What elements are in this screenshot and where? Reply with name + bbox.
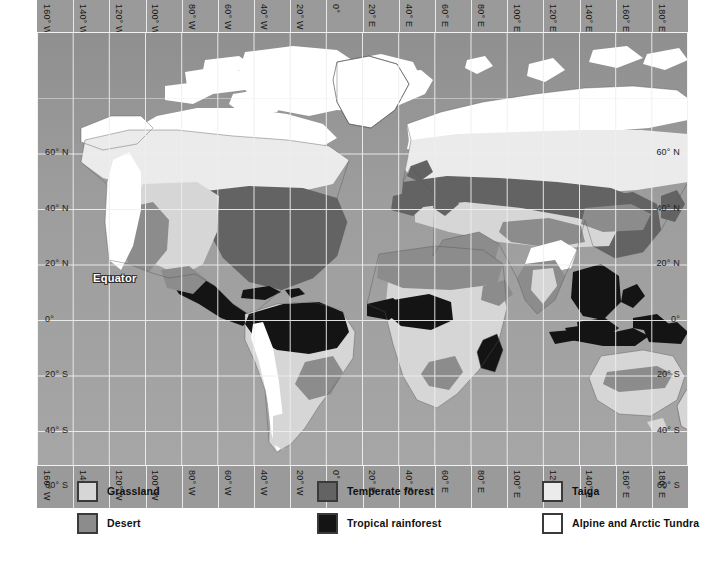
legend-item: Grassland bbox=[77, 480, 160, 502]
region-sahara-desert bbox=[377, 246, 503, 290]
longitude-gridline bbox=[652, 0, 653, 32]
legend-swatch bbox=[77, 513, 98, 534]
longitude-gridline bbox=[471, 0, 472, 32]
longitude-gridline bbox=[616, 0, 617, 32]
legend-item: Temperate forest bbox=[317, 480, 434, 502]
longitude-gridline bbox=[73, 0, 74, 32]
legend-label: Alpine and Arctic Tundra bbox=[572, 517, 699, 529]
legend-swatch bbox=[542, 513, 563, 534]
longitude-top-label: 20° W bbox=[295, 4, 305, 30]
longitude-gridline bbox=[218, 0, 219, 32]
longitude-gridline bbox=[326, 0, 327, 32]
longitude-gridline bbox=[363, 0, 364, 32]
legend-label: Grassland bbox=[107, 485, 160, 497]
legend-label: Desert bbox=[107, 517, 141, 529]
longitude-gridline bbox=[435, 0, 436, 32]
longitude-top-label: 40° E bbox=[404, 4, 414, 27]
longitude-gridline bbox=[290, 0, 291, 32]
longitude-gridline bbox=[254, 0, 255, 32]
biome-map-figure: 160° W140° W120° W100° W80° W60° W40° W2… bbox=[0, 0, 721, 563]
longitude-gridline bbox=[182, 0, 183, 32]
legend-swatch bbox=[77, 481, 98, 502]
longitude-top-label: 80° W bbox=[187, 4, 197, 30]
map-plot-area: Equator bbox=[37, 32, 688, 466]
longitude-top-label: 60° E bbox=[440, 4, 450, 27]
longitude-top-label: 140° E bbox=[584, 4, 594, 32]
legend-swatch bbox=[317, 513, 338, 534]
longitude-gridline bbox=[543, 0, 544, 32]
longitude-gridline bbox=[580, 0, 581, 32]
legend-label: Tropical rainforest bbox=[347, 517, 441, 529]
legend-item: Desert bbox=[77, 512, 141, 534]
world-map-graphic bbox=[37, 32, 688, 466]
longitude-top-label: 0° bbox=[331, 4, 341, 13]
legend-item: Tropical rainforest bbox=[317, 512, 441, 534]
longitude-top-label: 20° E bbox=[367, 4, 377, 27]
longitude-top-label: 140° W bbox=[78, 4, 88, 32]
longitude-gridline bbox=[109, 0, 110, 32]
map-legend: GrasslandDesertTemperate forestTropical … bbox=[37, 478, 688, 540]
longitude-top-label: 100° W bbox=[150, 4, 160, 32]
legend-label: Temperate forest bbox=[347, 485, 434, 497]
map-figure: Equator 60° N40° N20° N0°20° S40° S60° S… bbox=[37, 32, 688, 466]
longitude-gridline bbox=[146, 0, 147, 32]
longitude-gridline bbox=[507, 0, 508, 32]
longitude-top-label: 100° E bbox=[512, 4, 522, 32]
longitude-top-label: 160° E bbox=[621, 4, 631, 32]
longitude-top-label: 60° W bbox=[223, 4, 233, 30]
longitude-top-label: 120° W bbox=[114, 4, 124, 32]
legend-label: Taiga bbox=[572, 485, 599, 497]
legend-swatch bbox=[317, 481, 338, 502]
longitude-axis-top: 160° W140° W120° W100° W80° W60° W40° W2… bbox=[37, 0, 688, 32]
legend-item: Alpine and Arctic Tundra bbox=[542, 512, 699, 534]
longitude-top-label: 80° E bbox=[476, 4, 486, 27]
longitude-top-label: 120° E bbox=[548, 4, 558, 32]
longitude-top-label: 160° W bbox=[42, 4, 52, 32]
longitude-top-label: 180° E bbox=[657, 4, 667, 32]
legend-item: Taiga bbox=[542, 480, 599, 502]
legend-swatch bbox=[542, 481, 563, 502]
longitude-gridline bbox=[399, 0, 400, 32]
longitude-top-label: 40° W bbox=[259, 4, 269, 30]
